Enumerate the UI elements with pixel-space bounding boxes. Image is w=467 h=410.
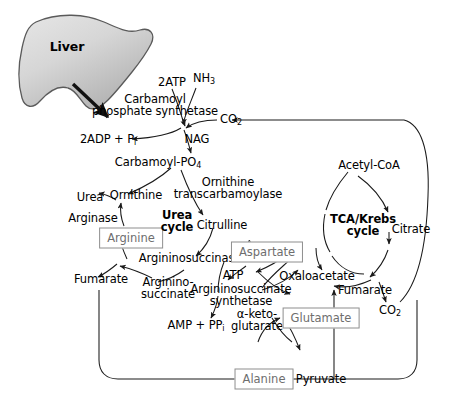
enzyme-cps: Carbamoyl phosphate synthetase	[92, 93, 218, 118]
tca-cycle-label: TCA/Krebs cycle	[330, 213, 396, 238]
boxed-metabolite-alanine[interactable]: Alanine	[235, 369, 294, 390]
diagram-canvas	[0, 0, 467, 410]
metabolite-nh3: NH3	[193, 72, 215, 85]
metabolite-nag: NAG	[185, 133, 210, 145]
metabolite-ornithine: Ornithine	[110, 189, 163, 201]
boxed-metabolite-aspartate[interactable]: Aspartate	[231, 242, 303, 263]
urea-cycle-label: Urea cycle	[161, 209, 193, 234]
metabolite-alpha-ketoglutarate: α-keto- glutarate	[231, 308, 283, 333]
metabolite-co2-tca: CO2	[379, 304, 401, 317]
metabolite-fumarate-urea: Fumarate	[74, 273, 128, 285]
liver-label: Liver	[50, 40, 85, 54]
enzyme-otc: Ornithine transcarbamoylase	[174, 176, 283, 201]
metabolite-acetyl-coa: Acetyl-CoA	[338, 159, 400, 171]
metabolite-fumarate-tca: Fumarate	[338, 284, 392, 296]
boxed-metabolite-glutamate[interactable]: Glutamate	[283, 308, 360, 329]
metabolite-adp-pi: 2ADP + Pi	[80, 133, 136, 146]
metabolite-citrate: Citrate	[392, 223, 430, 235]
metabolite-citrulline: Citrulline	[197, 219, 248, 231]
enzyme-argininosuccinase: Argininosuccinase	[139, 252, 242, 264]
metabolite-atp: ATP	[223, 269, 244, 281]
metabolite-argininosuccinate: Arginino- succinate	[141, 276, 195, 301]
metabolite-co2-top: CO2	[220, 113, 242, 126]
metabolite-pyruvate: Pyruvate	[296, 373, 346, 385]
metabolite-2atp: 2ATP	[158, 76, 186, 88]
enzyme-ass: Argininosuccinate synthetase	[190, 283, 291, 308]
metabolite-amp-ppi: AMP + PPi	[168, 319, 225, 332]
enzyme-arginase: Arginase	[68, 212, 118, 224]
metabolite-carbamoyl-phosphate: Carbamoyl-PO4	[115, 156, 201, 169]
metabolite-oxaloacetate: Oxaloacetate	[279, 270, 355, 282]
metabolite-urea: Urea	[77, 191, 104, 203]
boxed-metabolite-arginine[interactable]: Arginine	[99, 228, 163, 249]
